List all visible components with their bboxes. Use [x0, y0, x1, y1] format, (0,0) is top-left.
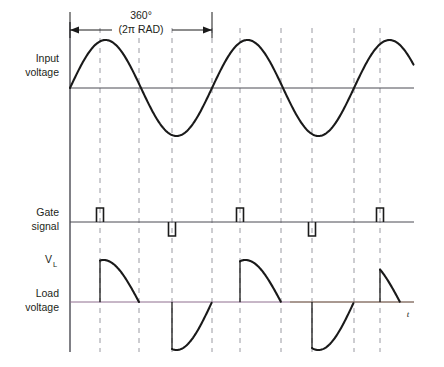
gate-signal-label-line2: signal: [32, 220, 59, 232]
load-voltage-label-line1: Load: [36, 287, 60, 299]
figure-background: [0, 0, 444, 367]
load-voltage-label-line2: voltage: [25, 301, 59, 313]
input-voltage-label-line1: Input: [36, 52, 59, 64]
vl-label-subscript: L: [53, 260, 57, 269]
dimension-label-radians: (2π RAD): [118, 23, 163, 35]
figure-root: Input voltage Gate signal V L Load volta…: [0, 0, 444, 367]
input-voltage-label-line2: voltage: [25, 66, 59, 78]
gate-signal-label-line1: Gate: [36, 206, 59, 218]
dimension-label-degrees: 360°: [130, 9, 152, 21]
waveform-diagram: Input voltage Gate signal V L Load volta…: [0, 0, 444, 367]
vl-label: V: [45, 253, 52, 265]
